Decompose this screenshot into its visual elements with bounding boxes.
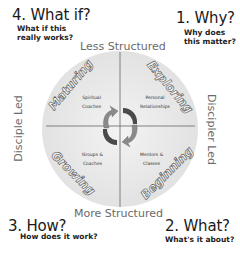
quadrant-inner-growing-line2: Coaches — [82, 159, 103, 168]
axis-label-less-structured: Less Structured — [80, 40, 166, 53]
quadrant-inner-beginning-line2: Classes — [140, 159, 163, 168]
question-why-subtitle-line1: Why does — [184, 28, 225, 37]
question-what-title: 2. What? — [165, 217, 230, 235]
question-how-subtitle: How does it work? — [20, 232, 98, 241]
quadrant-inner-growing-line1: Groups & — [82, 150, 103, 159]
question-what-if-subtitle-line1: What if this — [17, 24, 66, 33]
quadrant-inner-maturing-line2: Coaches — [82, 102, 101, 111]
question-what-if-subtitle-line2: really works? — [17, 33, 73, 42]
question-why-title: 1. Why? — [176, 9, 235, 27]
quadrant-inner-maturing-line1: Spiritual — [82, 93, 101, 102]
axis-label-more-structured: More Structured — [74, 207, 163, 220]
quadrant-inner-growing: Groups & Coaches — [82, 150, 103, 168]
quadrant-inner-exploring-line1: Personal — [140, 93, 170, 102]
quadrant-inner-beginning-line1: Mentors & — [140, 150, 163, 159]
question-why-subtitle-line2: this matter? — [184, 37, 236, 46]
axis-label-disciple-led: Disciple Led — [12, 95, 25, 161]
quadrant-inner-maturing: Spiritual Coaches — [82, 93, 101, 111]
quadrant-inner-beginning: Mentors & Classes — [140, 150, 163, 168]
question-what-subtitle: What's it about? — [165, 235, 234, 244]
question-what-if-title: 4. What if? — [12, 6, 90, 24]
quadrant-inner-exploring-line2: Relationships — [140, 102, 170, 111]
axis-label-discipler-led: Discipler Led — [205, 94, 218, 165]
quadrant-inner-exploring: Personal Relationships — [140, 93, 170, 111]
